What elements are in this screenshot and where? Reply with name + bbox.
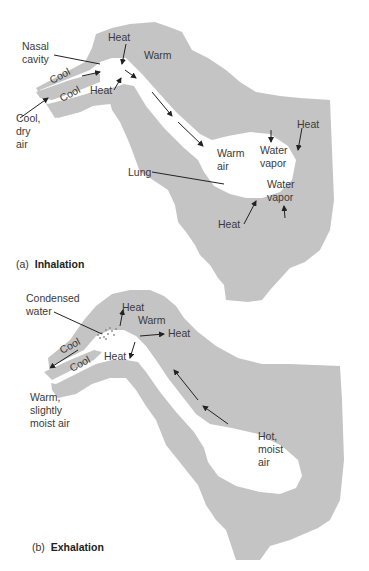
- label-water-vapor-top-2: vapor: [260, 157, 287, 169]
- label-heat-right-b: Heat: [168, 327, 190, 339]
- respiratory-heat-exchange-diagram: Nasal cavity Heat Warm Cool Cool Heat Co…: [0, 0, 369, 571]
- label-water-vapor-bottom-2: vapor: [267, 191, 294, 203]
- label-cool-dry-1: Cool,: [16, 112, 41, 124]
- label-heat-bottom: Heat: [218, 218, 240, 230]
- label-heat-lower: Heat: [90, 84, 112, 96]
- label-heat-right: Heat: [297, 118, 319, 130]
- label-cavity: cavity: [22, 53, 50, 65]
- label-warm-air-2: air: [217, 160, 229, 172]
- label-cool-dry-3: air: [16, 138, 28, 150]
- label-water-vapor-top-1: Water: [260, 144, 288, 156]
- label-warm-moist-2: slightly: [30, 404, 63, 416]
- panel-inhalation: Nasal cavity Heat Warm Cool Cool Heat Co…: [16, 22, 334, 302]
- label-heat-top: Heat: [108, 31, 130, 43]
- caption-exhalation: (b) Exhalation: [32, 541, 104, 553]
- label-cool-dry-2: dry: [16, 125, 31, 137]
- caption-title-a: Inhalation: [35, 258, 85, 270]
- label-heat-top-b: Heat: [122, 301, 144, 313]
- label-hot-moist-1: Hot,: [258, 430, 277, 442]
- label-water: water: [25, 305, 52, 317]
- caption-prefix-a: (a): [16, 258, 29, 270]
- label-hot-moist-3: air: [258, 456, 270, 468]
- label-warm-moist-3: moist air: [30, 417, 70, 429]
- label-warm-b: Warm: [138, 314, 166, 326]
- label-nasal: Nasal: [22, 40, 49, 52]
- label-condensed: Condensed: [26, 292, 80, 304]
- caption-prefix-b: (b): [32, 541, 45, 553]
- label-warm: Warm: [144, 49, 172, 61]
- label-lung: Lung: [128, 166, 152, 178]
- label-hot-moist-2: moist: [258, 443, 283, 455]
- label-warm-moist-1: Warm,: [30, 391, 61, 403]
- label-warm-air-1: Warm: [217, 147, 245, 159]
- label-water-vapor-bottom-1: Water: [267, 178, 295, 190]
- caption-inhalation: (a) Inhalation: [16, 258, 84, 270]
- caption-title-b: Exhalation: [51, 541, 104, 553]
- panel-exhalation: Condensed water Heat Warm Heat Cool Cool…: [25, 290, 344, 560]
- label-heat-lower-b: Heat: [104, 350, 126, 362]
